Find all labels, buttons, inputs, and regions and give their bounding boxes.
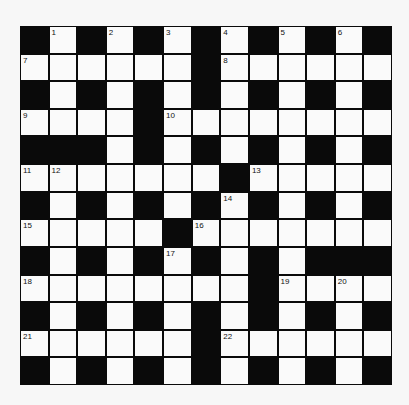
grid-cell[interactable]	[364, 110, 391, 136]
grid-cell[interactable]	[221, 276, 248, 302]
grid-cell[interactable]: 1	[50, 27, 77, 53]
grid-cell[interactable]: 4	[221, 27, 248, 53]
grid-cell[interactable]	[221, 358, 248, 384]
grid-cell[interactable]	[279, 165, 306, 191]
grid-cell[interactable]	[336, 55, 363, 81]
grid-cell[interactable]	[107, 165, 134, 191]
grid-cell[interactable]	[164, 137, 191, 163]
grid-cell[interactable]: 9	[21, 110, 48, 136]
grid-cell[interactable]	[279, 137, 306, 163]
grid-cell[interactable]	[279, 331, 306, 357]
grid-cell[interactable]	[336, 220, 363, 246]
grid-cell[interactable]	[336, 331, 363, 357]
grid-cell[interactable]	[164, 165, 191, 191]
grid-cell[interactable]	[279, 248, 306, 274]
grid-cell[interactable]: 15	[21, 220, 48, 246]
grid-cell[interactable]: 3	[164, 27, 191, 53]
grid-cell[interactable]: 20	[336, 276, 363, 302]
grid-cell[interactable]: 17	[164, 248, 191, 274]
grid-cell[interactable]: 19	[279, 276, 306, 302]
grid-cell[interactable]: 21	[21, 331, 48, 357]
grid-cell[interactable]	[336, 110, 363, 136]
grid-cell[interactable]	[164, 193, 191, 219]
grid-cell[interactable]	[221, 220, 248, 246]
grid-cell[interactable]	[250, 220, 277, 246]
grid-cell[interactable]	[307, 220, 334, 246]
grid-cell[interactable]	[135, 276, 162, 302]
grid-cell[interactable]	[193, 110, 220, 136]
grid-cell[interactable]	[50, 331, 77, 357]
grid-cell[interactable]: 14	[221, 193, 248, 219]
grid-cell[interactable]	[107, 55, 134, 81]
grid-cell[interactable]	[336, 193, 363, 219]
grid-cell[interactable]	[279, 303, 306, 329]
grid-cell[interactable]: 16	[193, 220, 220, 246]
grid-cell[interactable]: 6	[336, 27, 363, 53]
grid-cell[interactable]	[50, 303, 77, 329]
grid-cell[interactable]: 2	[107, 27, 134, 53]
grid-cell[interactable]	[364, 165, 391, 191]
grid-cell[interactable]	[364, 55, 391, 81]
grid-cell[interactable]	[193, 276, 220, 302]
grid-cell[interactable]: 22	[221, 331, 248, 357]
grid-cell[interactable]	[107, 276, 134, 302]
grid-cell[interactable]	[50, 276, 77, 302]
grid-cell[interactable]	[364, 220, 391, 246]
grid-cell[interactable]	[307, 276, 334, 302]
grid-cell[interactable]	[307, 55, 334, 81]
grid-cell[interactable]	[364, 331, 391, 357]
grid-cell[interactable]	[164, 303, 191, 329]
grid-cell[interactable]: 7	[21, 55, 48, 81]
grid-cell[interactable]	[164, 276, 191, 302]
grid-cell[interactable]	[78, 220, 105, 246]
grid-cell[interactable]	[307, 165, 334, 191]
grid-cell[interactable]	[50, 193, 77, 219]
grid-cell[interactable]	[307, 110, 334, 136]
grid-cell[interactable]: 12	[50, 165, 77, 191]
grid-cell[interactable]	[107, 303, 134, 329]
grid-cell[interactable]	[78, 55, 105, 81]
grid-cell[interactable]: 5	[279, 27, 306, 53]
grid-cell[interactable]	[164, 331, 191, 357]
grid-cell[interactable]	[107, 137, 134, 163]
grid-cell[interactable]	[193, 165, 220, 191]
grid-cell[interactable]	[336, 82, 363, 108]
grid-cell[interactable]: 11	[21, 165, 48, 191]
grid-cell[interactable]	[50, 358, 77, 384]
grid-cell[interactable]	[279, 193, 306, 219]
grid-cell[interactable]	[221, 248, 248, 274]
grid-cell[interactable]	[279, 358, 306, 384]
grid-cell[interactable]	[250, 55, 277, 81]
grid-cell[interactable]: 10	[164, 110, 191, 136]
grid-cell[interactable]	[107, 82, 134, 108]
grid-cell[interactable]	[221, 303, 248, 329]
grid-cell[interactable]: 13	[250, 165, 277, 191]
grid-cell[interactable]	[50, 82, 77, 108]
grid-cell[interactable]	[135, 331, 162, 357]
grid-cell[interactable]	[107, 248, 134, 274]
grid-cell[interactable]	[279, 82, 306, 108]
grid-cell[interactable]	[364, 276, 391, 302]
grid-cell[interactable]	[50, 220, 77, 246]
grid-cell[interactable]	[107, 331, 134, 357]
grid-cell[interactable]	[164, 55, 191, 81]
grid-cell[interactable]: 8	[221, 55, 248, 81]
grid-cell[interactable]	[78, 331, 105, 357]
grid-cell[interactable]	[279, 220, 306, 246]
grid-cell[interactable]	[250, 331, 277, 357]
grid-cell[interactable]	[135, 220, 162, 246]
grid-cell[interactable]	[336, 165, 363, 191]
grid-cell[interactable]	[336, 137, 363, 163]
grid-cell[interactable]	[50, 55, 77, 81]
grid-cell[interactable]	[107, 110, 134, 136]
grid-cell[interactable]	[221, 137, 248, 163]
grid-cell[interactable]	[50, 110, 77, 136]
grid-cell[interactable]	[336, 358, 363, 384]
grid-cell[interactable]	[50, 248, 77, 274]
grid-cell[interactable]	[279, 110, 306, 136]
grid-cell[interactable]	[135, 55, 162, 81]
grid-cell[interactable]	[164, 358, 191, 384]
grid-cell[interactable]	[78, 165, 105, 191]
grid-cell[interactable]	[78, 276, 105, 302]
grid-cell[interactable]	[107, 220, 134, 246]
